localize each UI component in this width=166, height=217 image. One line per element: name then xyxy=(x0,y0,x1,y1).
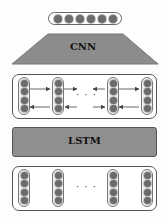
node xyxy=(110,189,117,196)
node xyxy=(21,172,28,179)
lstm-label: LSTM xyxy=(12,135,157,146)
node xyxy=(110,180,117,187)
node xyxy=(144,180,151,187)
input-column-2 xyxy=(52,169,64,207)
node xyxy=(144,172,151,179)
node xyxy=(110,172,117,179)
node xyxy=(110,197,117,204)
node xyxy=(55,197,62,204)
node xyxy=(21,180,28,187)
input-column-1 xyxy=(18,169,30,207)
node xyxy=(55,172,62,179)
node xyxy=(21,189,28,196)
node xyxy=(55,189,62,196)
node xyxy=(21,197,28,204)
node xyxy=(144,189,151,196)
input-column-3 xyxy=(107,169,119,207)
ellipsis: · · · xyxy=(76,181,97,192)
input-column-4 xyxy=(141,169,153,207)
node xyxy=(144,197,151,204)
input-layer-panel: · · · xyxy=(12,166,157,211)
node xyxy=(55,180,62,187)
